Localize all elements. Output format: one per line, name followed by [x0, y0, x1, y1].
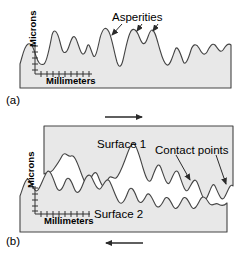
asperities-label: Asperities — [112, 12, 163, 24]
panel-a-x-axis-label: Millimeters — [46, 76, 96, 86]
contact-points-label: Contact points — [155, 145, 229, 157]
panel-b-y-axis-label: Microns — [26, 152, 36, 188]
panel-b-caption: (b) — [6, 236, 20, 248]
surface-2-label: Surface 2 — [94, 209, 143, 221]
surface-1-label: Surface 1 — [97, 139, 146, 151]
panel-a-y-axis-label: Microns — [28, 11, 38, 47]
panel-a-caption: (a) — [6, 95, 20, 107]
surface-asperity-figure: Asperities Microns Millimeters (a) Surfa… — [0, 0, 244, 259]
panel-b-x-axis-label: Millimeters — [44, 216, 94, 226]
